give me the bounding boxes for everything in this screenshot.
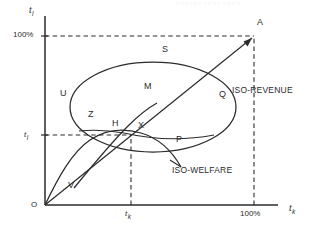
point-label-v: V [68,180,74,190]
y-tick-tl-subscript: l [27,134,28,141]
diagonal-ray-line [45,38,252,205]
x-axis-title: tk [289,203,295,213]
point-label-s: S [162,44,168,54]
diagram-canvas [0,0,312,233]
point-label-h: H [112,118,119,128]
x-tick-100-label: 100% [240,209,260,218]
point-label-z: Z [88,109,94,119]
origin-label: O [31,200,37,209]
point-label-a: A [257,17,263,27]
iso-welfare-label: ISO-WELFARE [172,165,232,175]
y-tick-tl-symbol: t [24,130,26,139]
point-label-q: Q [219,89,226,99]
x-tick-tk-symbol: t [125,209,127,218]
point-label-u: U [60,88,67,98]
diagonal-ray-arrowhead [244,38,253,47]
y-tick-100-label: 100% [13,30,33,39]
iso-welfare-lower-arc [124,133,214,139]
expansion-path-curve [74,103,157,188]
forty-five-degree-ray [45,38,252,205]
point-label-x: X [138,120,144,130]
point-label-p: P [176,134,182,144]
iso-revenue-label: ISO-REVENUE [232,85,293,95]
x-axis-title-subscript: k [292,208,295,215]
point-label-m: M [144,81,152,91]
y-axis-title: tl [29,5,33,15]
figure-container: n o u r o n n o o n n o o n [0,0,312,233]
y-tick-tl-label: tl [24,130,28,139]
x-tick-tk-subscript: k [128,213,131,220]
x-tick-tk-label: tk [125,209,130,218]
